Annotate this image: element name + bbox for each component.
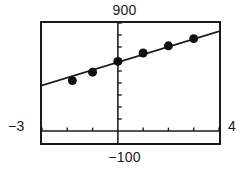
- data-point: [68, 76, 77, 85]
- y-min-label: −100: [0, 150, 249, 164]
- x-max-label: 4: [228, 119, 236, 133]
- data-point: [113, 57, 122, 66]
- calculator-screen: 900 −100 −3 4: [0, 0, 249, 173]
- plot-frame: [40, 21, 221, 145]
- data-point: [164, 41, 173, 50]
- data-point: [88, 68, 97, 77]
- x-min-label: −3: [8, 119, 24, 133]
- plot-canvas: [42, 23, 219, 143]
- data-point-group: [68, 34, 198, 85]
- y-max-label: 900: [0, 3, 249, 17]
- data-point: [189, 34, 198, 43]
- data-point: [139, 49, 148, 58]
